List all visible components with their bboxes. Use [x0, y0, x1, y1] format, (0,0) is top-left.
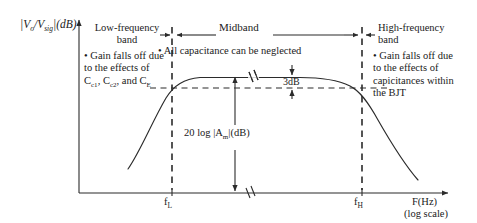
midband-note: • All capacitance can be neglected — [158, 45, 301, 57]
low-frequency-note-capacitors: Cc1, Cc2, and CE — [84, 75, 172, 89]
high-frequency-note-line1: • Gain falls off due — [373, 50, 477, 62]
high-frequency-note-line4: the BJT — [373, 87, 477, 99]
high-frequency-note-line3: capicitances within — [373, 75, 477, 87]
midband-gain-label: 20 log |Am|(dB) — [184, 127, 250, 141]
high-frequency-band-note: • Gain falls off due to the effects of c… — [373, 50, 477, 100]
midband-gain-pre: 20 log |A — [184, 127, 223, 138]
midband-gain-post: |(dB) — [228, 127, 249, 138]
low-frequency-band-title: Low-frequency band — [84, 22, 170, 47]
high-frequency-band-title: High-frequency band — [378, 22, 476, 47]
three-db-label: 3dB — [283, 76, 300, 88]
axis-ticks — [172, 188, 362, 196]
high-frequency-band-title-line2: band — [378, 34, 476, 46]
x-tick-label-fl: fL — [164, 196, 172, 211]
y-axis-label: |Vo/Vsig|(dB) — [20, 18, 77, 34]
midband-label: Midband — [219, 21, 259, 34]
break-mark-x-axis — [246, 186, 255, 198]
y-axis-label-text: |Vo/Vsig|(dB) — [20, 18, 77, 30]
break-mark-curve — [248, 70, 259, 82]
high-frequency-note-line2: to the effects of — [373, 62, 477, 74]
x-axis-scale-label: (log scale) — [404, 208, 448, 220]
figure-canvas: |Vo/Vsig|(dB) Low-frequency band • Gain … — [0, 0, 477, 223]
x-axis-label: F(Hz) — [412, 196, 437, 208]
high-frequency-band-title-line1: High-frequency — [378, 22, 476, 34]
low-frequency-band-title-line1: Low-frequency — [84, 22, 170, 34]
x-tick-label-fh: fH — [354, 196, 363, 211]
low-frequency-note-line2: to the effects of — [84, 62, 172, 74]
